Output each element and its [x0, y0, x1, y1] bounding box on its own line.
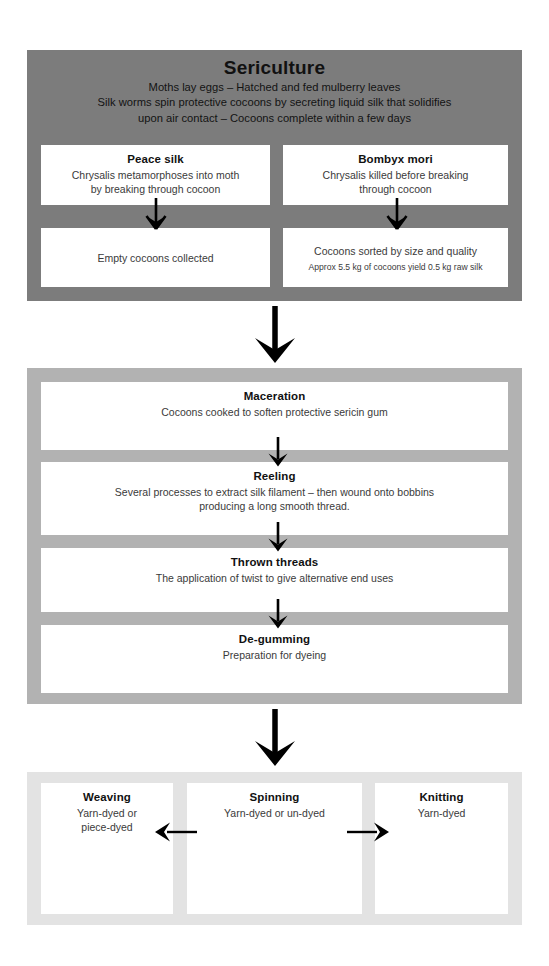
card-title: Spinning [250, 790, 300, 805]
card-title: Maceration [244, 389, 306, 404]
card-empty-cocoons-collected[interactable]: Empty cocoons collected [41, 228, 270, 287]
card-title: De-gumming [239, 632, 310, 647]
card-body: The application of twist to give alterna… [156, 571, 394, 585]
card-body: Yarn-dyed [418, 806, 466, 820]
card-cocoons-sorted[interactable]: Cocoons sorted by size and quality Appro… [283, 228, 508, 287]
card-body: Chrysalis metamorphoses into moth by bre… [72, 168, 239, 196]
card-body: Yarn-dyed or piece-dyed [77, 806, 137, 834]
card-reeling[interactable]: Reeling Several processes to extract sil… [41, 462, 508, 535]
card-title: Peace silk [127, 152, 184, 167]
card-body: Chrysalis killed before breaking through… [323, 168, 469, 196]
card-peace-silk[interactable]: Peace silk Chrysalis metamorphoses into … [41, 145, 270, 205]
card-body: Yarn-dyed or un-dyed [224, 806, 325, 820]
card-title: Reeling [253, 469, 295, 484]
card-title: Knitting [419, 790, 463, 805]
card-subtext: Approx 5.5 kg of cocoons yield 0.5 kg ra… [309, 261, 483, 273]
card-title: Weaving [83, 790, 131, 805]
card-body: Cocoons sorted by size and quality [314, 244, 477, 258]
card-spinning[interactable]: Spinning Yarn-dyed or un-dyed [187, 783, 362, 914]
flowchart-page: Sericulture Moths lay eggs – Hatched and… [0, 0, 549, 966]
card-maceration[interactable]: Maceration Cocoons cooked to soften prot… [41, 382, 508, 450]
card-body: Several processes to extract silk filame… [115, 485, 434, 513]
card-weaving[interactable]: Weaving Yarn-dyed or piece-dyed [41, 783, 173, 914]
card-body: Empty cocoons collected [97, 251, 213, 265]
page-title: Sericulture [27, 56, 522, 79]
processing-to-fabric-arrow [252, 709, 298, 767]
card-title: Thrown threads [231, 555, 319, 570]
card-de-gumming[interactable]: De-gumming Preparation for dyeing [41, 625, 508, 693]
sericulture-description: Moths lay eggs – Hatched and fed mulberr… [27, 80, 522, 126]
sericulture-to-processing-arrow [252, 306, 298, 364]
sericulture-header: Sericulture Moths lay eggs – Hatched and… [27, 56, 522, 126]
card-thrown-threads[interactable]: Thrown threads The application of twist … [41, 548, 508, 612]
card-knitting[interactable]: Knitting Yarn-dyed [375, 783, 508, 914]
card-body: Cocoons cooked to soften protective seri… [161, 405, 387, 419]
card-body: Preparation for dyeing [223, 648, 326, 662]
card-title: Bombyx mori [358, 152, 433, 167]
card-bombyx-mori[interactable]: Bombyx mori Chrysalis killed before brea… [283, 145, 508, 205]
